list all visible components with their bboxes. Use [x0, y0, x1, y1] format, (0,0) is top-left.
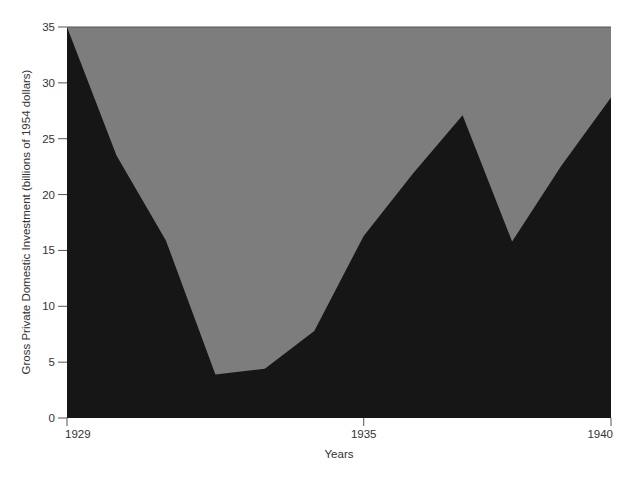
x-axis-title: Years [325, 448, 354, 460]
y-tick-label: 30 [42, 77, 55, 89]
y-tick-label: 20 [42, 189, 55, 201]
y-tick-label: 5 [49, 356, 55, 368]
y-axis-title: Gross Private Domestic Investment (billi… [20, 69, 32, 374]
y-tick-label: 35 [42, 21, 55, 33]
y-tick-label: 15 [42, 244, 55, 256]
x-tick-label: 1935 [351, 428, 377, 440]
y-axis: 05101520253035 [42, 21, 67, 424]
y-tick-label: 0 [49, 412, 55, 424]
x-tick-label: 1929 [65, 428, 91, 440]
x-axis: 192919351940 [65, 418, 613, 440]
chart: 05101520253035 192919351940 Years Gross … [0, 0, 632, 482]
y-tick-label: 10 [42, 300, 55, 312]
y-tick-label: 25 [42, 133, 55, 145]
x-tick-label: 1940 [587, 428, 613, 440]
